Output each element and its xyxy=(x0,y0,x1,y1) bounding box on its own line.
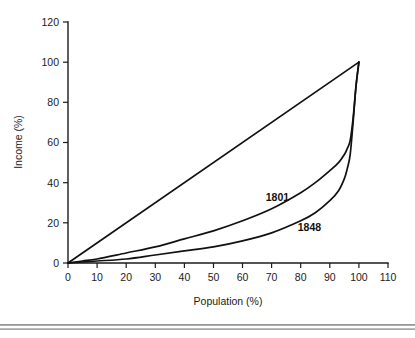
x-tick-label: 70 xyxy=(266,271,278,283)
y-axis-tick-labels: 0 20 40 60 80 100 120 xyxy=(41,16,59,269)
y-tick-label: 20 xyxy=(47,217,59,229)
y-tick-label: 0 xyxy=(53,257,59,269)
x-tick-label: 80 xyxy=(295,271,307,283)
x-axis-ticks xyxy=(68,263,388,268)
x-tick-label: 0 xyxy=(65,271,71,283)
x-tick-label: 60 xyxy=(237,271,249,283)
x-axis-tick-labels: 0 10 20 30 40 50 60 70 80 90 100 110 xyxy=(65,271,396,283)
x-tick-label: 90 xyxy=(324,271,336,283)
x-axis-title: Population (%) xyxy=(194,295,263,307)
y-tick-label: 60 xyxy=(47,136,59,148)
x-tick-label: 50 xyxy=(208,271,220,283)
y-axis-title: Income (%) xyxy=(12,115,24,169)
y-tick-label: 40 xyxy=(47,177,59,189)
x-tick-label: 20 xyxy=(120,271,132,283)
y-tick-label: 120 xyxy=(41,16,59,28)
x-tick-label: 10 xyxy=(91,271,103,283)
series-annotation-1801: 1801 xyxy=(266,191,290,203)
x-tick-label: 30 xyxy=(149,271,161,283)
y-tick-label: 80 xyxy=(47,96,59,108)
series-annotation-1848: 1848 xyxy=(298,221,322,233)
x-tick-label: 40 xyxy=(179,271,191,283)
footer-divider-bottom xyxy=(0,328,415,330)
lorenz-curve-figure: 0 20 40 60 80 100 120 0 10 20 xyxy=(0,0,415,338)
y-tick-label: 100 xyxy=(41,56,59,68)
data-series-group xyxy=(68,62,359,263)
chart-canvas: 0 20 40 60 80 100 120 0 10 20 xyxy=(0,0,415,338)
series-line-equality xyxy=(68,62,359,263)
footer-divider-top xyxy=(0,324,415,326)
x-tick-label: 110 xyxy=(380,271,397,283)
y-axis-ticks xyxy=(63,22,68,263)
x-tick-label: 100 xyxy=(350,271,368,283)
